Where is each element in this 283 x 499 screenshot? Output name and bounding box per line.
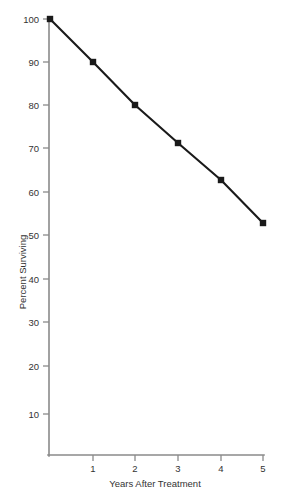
y-tick-label: 60 bbox=[28, 187, 39, 198]
chart-background bbox=[0, 0, 283, 499]
y-tick-label: 50 bbox=[28, 230, 39, 241]
data-point-marker bbox=[47, 16, 53, 22]
chart-container: 100 90 80 70 60 50 40 30 20 10 1 2 3 4 5 bbox=[0, 0, 283, 499]
y-tick-label: 100 bbox=[23, 14, 39, 25]
y-tick-label: 70 bbox=[28, 143, 39, 154]
y-tick-label: 80 bbox=[28, 100, 39, 111]
data-point-marker bbox=[132, 102, 138, 108]
data-point-marker bbox=[218, 177, 224, 183]
line-chart: 100 90 80 70 60 50 40 30 20 10 1 2 3 4 5 bbox=[0, 0, 283, 499]
x-tick-label: 1 bbox=[90, 463, 95, 474]
data-point-marker bbox=[260, 220, 266, 226]
y-tick-label: 10 bbox=[28, 409, 39, 420]
y-tick-label: 90 bbox=[28, 57, 39, 68]
x-tick-label: 4 bbox=[218, 463, 223, 474]
y-tick-label: 20 bbox=[28, 361, 39, 372]
y-axis-title: Percent Surviving bbox=[17, 235, 28, 309]
y-tick-label: 40 bbox=[28, 274, 39, 285]
x-tick-label: 2 bbox=[132, 463, 137, 474]
x-tick-label: 5 bbox=[260, 463, 265, 474]
data-point-marker bbox=[90, 59, 96, 65]
y-tick-label: 30 bbox=[28, 317, 39, 328]
data-point-marker bbox=[175, 140, 181, 146]
x-axis-title: Years After Treatment bbox=[109, 478, 201, 489]
x-tick-label: 3 bbox=[175, 463, 180, 474]
